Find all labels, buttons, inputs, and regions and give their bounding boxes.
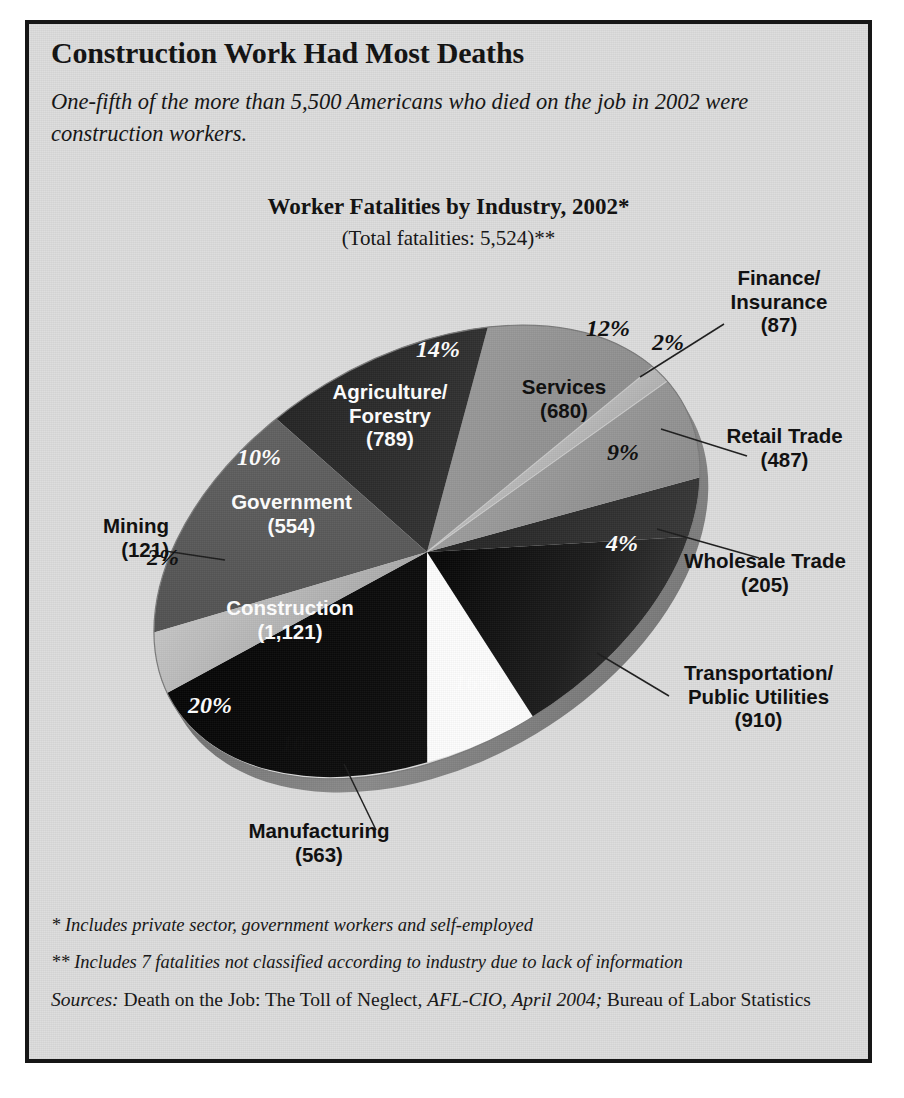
slice-pct-retail: 9%: [607, 439, 639, 466]
callout-wholesale: Wholesale Trade (205): [660, 549, 870, 596]
slice-label-government: Government (554): [184, 490, 399, 537]
callout-finance: Finance/ Insurance (87): [689, 266, 869, 337]
slice-pct-services: 12%: [586, 315, 630, 342]
footnote-2: ** Includes 7 fatalities not classified …: [51, 949, 851, 975]
slice-pct-agriculture: 14%: [416, 336, 460, 363]
slice-label-government-line2: (554): [268, 514, 316, 537]
callout-wholesale-line2: (205): [741, 573, 789, 596]
pie-chart: Agriculture/ Forestry (789) 14% Services…: [29, 24, 868, 1059]
callout-retail-line1: Retail Trade: [726, 424, 842, 447]
slice-label-services: Services (680): [484, 375, 644, 422]
callout-transportation-line2: Public Utilities: [688, 685, 829, 708]
slice-pct-transportation: 16%: [454, 669, 498, 696]
sources-tail: Bureau of Labor Statistics: [602, 989, 811, 1010]
callout-finance-line1: Finance/: [737, 266, 820, 289]
callout-manufacturing: Manufacturing (563): [204, 819, 434, 866]
footnote-1: * Includes private sector, government wo…: [51, 912, 851, 938]
slice-pct-wholesale: 4%: [606, 530, 638, 557]
callout-transportation: Transportation/ Public Utilities (910): [651, 661, 866, 732]
callout-finance-line3: (87): [761, 313, 797, 336]
callout-mining-line1: Mining: [103, 514, 169, 537]
sources-emphasis: AFL-CIO, April 2004;: [427, 989, 602, 1010]
slice-label-agriculture: Agriculture/ Forestry (789): [275, 380, 505, 451]
slice-label-agriculture-line1: Agriculture/: [332, 380, 447, 403]
footnotes: * Includes private sector, government wo…: [51, 912, 851, 1014]
sources-line: Sources: Death on the Job: The Toll of N…: [51, 986, 851, 1014]
slice-pct-finance: 2%: [652, 329, 684, 356]
callout-manufacturing-line2: (563): [295, 843, 343, 866]
slice-label-government-line1: Government: [231, 490, 352, 513]
infographic-frame: Construction Work Had Most Deaths One-fi…: [25, 20, 872, 1063]
callout-retail-line2: (487): [761, 448, 809, 471]
callout-transportation-line3: (910): [735, 708, 783, 731]
callout-wholesale-line1: Wholesale Trade: [684, 549, 846, 572]
slice-label-construction: Construction (1,121): [175, 596, 405, 643]
slice-label-services-line2: (680): [540, 399, 588, 422]
slice-pct-construction: 20%: [188, 692, 232, 719]
sources-middle: Death on the Job: The Toll of Neglect,: [119, 989, 428, 1010]
callout-finance-line2: Insurance: [731, 290, 828, 313]
slice-label-construction-line2: (1,121): [258, 620, 323, 643]
slice-pct-mining: 2%: [147, 544, 179, 571]
slice-label-construction-line1: Construction: [226, 596, 354, 619]
sources-label: Sources:: [51, 989, 119, 1010]
slice-label-agriculture-line2: Forestry: [349, 404, 431, 427]
callout-transportation-line1: Transportation/: [684, 661, 833, 684]
slice-pct-government: 10%: [237, 444, 281, 471]
callout-retail: Retail Trade (487): [697, 424, 872, 471]
slice-label-agriculture-line3: (789): [366, 427, 414, 450]
slice-label-services-line1: Services: [522, 375, 606, 398]
slice-pct-manufacturing: 10%: [281, 730, 325, 757]
callout-manufacturing-line1: Manufacturing: [248, 819, 389, 842]
